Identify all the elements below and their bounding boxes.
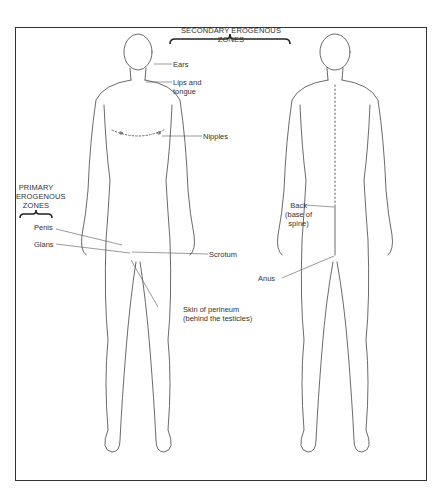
primary-title-line-1: PRIMARY	[16, 183, 56, 192]
label-lips-line-2: tongue	[173, 87, 201, 96]
label-anus: Anus	[258, 274, 275, 283]
primary-zones-title: PRIMARY EROGENOUS ZONES	[16, 183, 56, 210]
label-ears: Ears	[173, 60, 188, 69]
label-perineum-line-1: Skin of perineum	[183, 305, 252, 314]
label-back-line-1: Back	[285, 201, 312, 210]
back-figure-outline	[278, 34, 393, 452]
label-lips-line-1: Lips and	[173, 78, 201, 87]
label-back-line-3: spine)	[285, 219, 312, 228]
primary-title-line-3: ZONES	[16, 201, 56, 210]
label-back: Back (base of spine)	[285, 201, 312, 228]
label-back-line-2: (base of	[285, 210, 312, 219]
front-figure-outline	[82, 34, 195, 452]
secondary-zones-title: SECONDARY EROGENOUS ZONES	[172, 26, 290, 44]
primary-bracket	[20, 210, 52, 218]
label-glans: Glans	[34, 240, 54, 249]
label-scrotum: Scrotum	[209, 250, 237, 259]
label-penis: Penis	[34, 223, 53, 232]
label-lips-tongue: Lips and tongue	[173, 78, 201, 96]
label-nipples: Nipples	[203, 132, 228, 141]
label-perineum-line-2: (behind the testicles)	[183, 314, 252, 323]
primary-title-line-2: EROGENOUS	[16, 192, 56, 201]
label-perineum: Skin of perineum (behind the testicles)	[183, 305, 252, 323]
